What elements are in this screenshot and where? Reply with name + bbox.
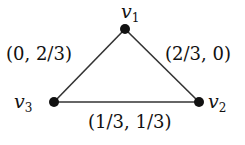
edge-v1-v2 [125,29,199,102]
node-v3 [49,97,59,107]
node-label-v2: v2 [208,90,226,115]
edge-label-v1-v2: (2/3, 0) [165,43,231,64]
node-v2 [194,97,204,107]
edge-v3-v1 [54,29,125,102]
node-label-v1: v1 [121,0,139,25]
node-label-v3: v3 [14,90,32,115]
edge-label-v3-v1: (0, 2/3) [6,43,72,64]
node-v1 [120,24,130,34]
edge-label-v3-v2: (1/3, 1/3) [88,111,171,132]
triangle-graph-diagram: v1 v2 v3 (0, 2/3) (2/3, 0) (1/3, 1/3) [0,0,245,145]
